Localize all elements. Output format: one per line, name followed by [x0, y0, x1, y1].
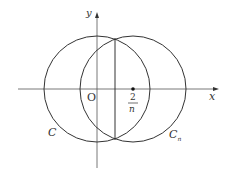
fraction-denominator: n	[129, 105, 135, 114]
circle-c-label: C	[48, 127, 56, 138]
center-point	[131, 87, 135, 91]
x-axis-label: x	[209, 91, 215, 102]
y-axis-label: y	[86, 8, 92, 18]
diagram-canvas	[0, 0, 234, 180]
fraction-numerator: 2	[130, 93, 136, 102]
origin-label: O	[87, 92, 96, 103]
circle-cn-subscript: n	[177, 135, 181, 142]
circle-cn-label: Cn	[169, 129, 181, 142]
y-axis-arrow-icon	[95, 12, 99, 18]
